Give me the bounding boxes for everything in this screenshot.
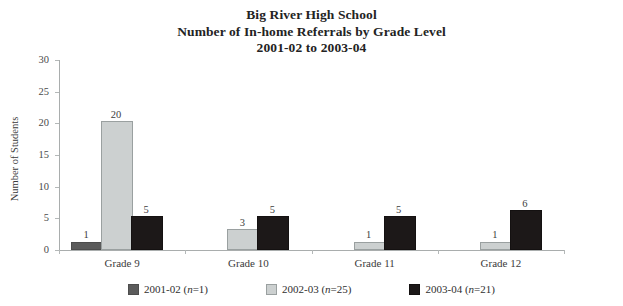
bar-value-label: 20 — [101, 110, 131, 121]
bar[interactable] — [101, 121, 133, 250]
x-axis-tick — [59, 250, 60, 254]
y-axis-tick-label: 15 — [23, 150, 49, 161]
legend-swatch-icon — [266, 284, 277, 295]
bar-group: 35 — [185, 60, 311, 250]
bar[interactable] — [71, 242, 103, 250]
legend-swatch-icon — [409, 284, 420, 295]
legend-item-label: 2002-03 (n=25) — [282, 283, 351, 295]
y-axis-title: Number of Students — [9, 99, 21, 219]
bar-value-label: 1 — [354, 230, 384, 241]
bar-value-label: 1 — [480, 230, 510, 241]
y-axis-tick-label: 10 — [23, 182, 49, 193]
bar[interactable] — [480, 242, 512, 250]
y-axis-tick-label: 30 — [23, 55, 49, 66]
bar-group: 15 — [312, 60, 438, 250]
x-axis-tick — [312, 250, 313, 254]
x-axis-tick-label: Grade 9 — [59, 257, 185, 269]
y-axis-tick-label: 25 — [23, 87, 49, 98]
x-axis-tick — [185, 250, 186, 254]
bar-value-label: 5 — [384, 205, 414, 216]
plot-area: 051015202530 1205351516 Grade 9Grade 10G… — [59, 60, 564, 250]
y-axis-tick-label: 5 — [23, 213, 49, 224]
chart-title-line-2: Number of In-home Referrals by Grade Lev… — [0, 24, 623, 41]
chart-title-line-3: 2001-02 to 2003-04 — [0, 40, 623, 57]
legend-item[interactable]: 2002-03 (n=25) — [266, 283, 351, 295]
bar-group: 16 — [438, 60, 564, 250]
bar-value-label: 1 — [71, 230, 101, 241]
bar[interactable] — [131, 216, 163, 250]
y-axis-tick-label: 0 — [23, 245, 49, 256]
y-axis-title-wrapper: Number of Students — [8, 100, 22, 220]
chart-title: Big River High School Number of In-home … — [0, 7, 623, 57]
bar[interactable] — [510, 210, 542, 250]
bar-value-label: 6 — [510, 199, 540, 210]
bar-value-label: 3 — [227, 218, 257, 229]
bar-group: 1205 — [59, 60, 185, 250]
x-axis-tick-label: Grade 12 — [438, 257, 564, 269]
x-axis-tick-label: Grade 10 — [185, 257, 311, 269]
bar[interactable] — [384, 216, 416, 250]
bar[interactable] — [227, 229, 259, 250]
legend-item-label: 2003-04 (n=21) — [425, 283, 494, 295]
x-axis-tick — [564, 250, 565, 254]
bar-chart: Big River High School Number of In-home … — [0, 0, 623, 306]
x-axis-tick — [438, 250, 439, 254]
legend-item-label: 2001-02 (n=1) — [144, 283, 208, 295]
legend-item[interactable]: 2001-02 (n=1) — [128, 283, 208, 295]
bar-value-label: 5 — [131, 205, 161, 216]
legend-swatch-icon — [128, 284, 139, 295]
chart-title-line-1: Big River High School — [0, 7, 623, 24]
bar[interactable] — [354, 242, 386, 250]
legend-item[interactable]: 2003-04 (n=21) — [409, 283, 494, 295]
y-axis-tick-label: 20 — [23, 118, 49, 129]
bar-value-label: 5 — [257, 205, 287, 216]
chart-legend: 2001-02 (n=1)2002-03 (n=25)2003-04 (n=21… — [0, 283, 623, 295]
bar[interactable] — [257, 216, 289, 250]
x-axis-tick-label: Grade 11 — [312, 257, 438, 269]
